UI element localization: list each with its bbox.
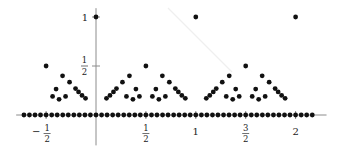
data-point (230, 97, 235, 102)
axis-data-point (182, 113, 187, 118)
axis-data-point (127, 113, 132, 118)
axis-data-point (232, 113, 237, 118)
data-point (207, 93, 212, 98)
data-point (260, 73, 265, 78)
data-point (108, 93, 113, 98)
x-tick-label-two: 2 (292, 126, 298, 137)
data-point (250, 94, 255, 99)
data-point (279, 93, 284, 98)
data-point (273, 86, 278, 91)
data-point (124, 94, 129, 99)
data-point (120, 80, 125, 85)
tick-text: 1 (193, 126, 199, 137)
axis-data-point (265, 113, 270, 118)
axis-data-point (177, 113, 182, 118)
data-point (60, 73, 65, 78)
axis-data-point (271, 113, 276, 118)
axis-data-point (282, 113, 287, 118)
tick-denominator: 2 (44, 134, 49, 144)
tick-text: 2 (292, 126, 298, 137)
axis-data-point (116, 113, 121, 118)
y-tick-label-one: 1 (82, 12, 88, 23)
axis-data-point (166, 113, 171, 118)
axis-data-point (188, 113, 193, 118)
data-point (150, 94, 155, 99)
data-point (193, 15, 198, 20)
axis-data-point (199, 113, 204, 118)
tick-denominator: 2 (82, 67, 87, 77)
data-point (179, 93, 184, 98)
axis-data-point (293, 113, 298, 118)
data-point (137, 94, 142, 99)
axis-data-point (193, 113, 198, 118)
axis-data-point (160, 113, 165, 118)
data-point (73, 86, 78, 91)
axis-data-point (227, 113, 232, 118)
data-point (243, 64, 248, 69)
axis-data-point (254, 113, 259, 118)
axis-data-point (121, 113, 126, 118)
data-point (54, 87, 59, 92)
axis-data-point (310, 113, 315, 118)
data-point (263, 94, 268, 99)
tick-denominator: 2 (243, 134, 248, 144)
x-tick-label-three-halves: 3 2 (242, 123, 249, 144)
data-point (144, 64, 149, 69)
axis-data-point (77, 113, 82, 118)
data-point (237, 94, 242, 99)
axis-data-point (149, 113, 154, 118)
data-point (256, 97, 261, 102)
axis-data-point (155, 113, 160, 118)
data-point (131, 97, 136, 102)
data-point (153, 87, 158, 92)
axis-data-point (277, 113, 282, 118)
data-point (57, 97, 62, 102)
tick-numerator: 3 (243, 123, 248, 133)
data-point (94, 15, 99, 20)
tick-numerator: 1 (82, 55, 87, 65)
tick-numerator: 1 (44, 123, 49, 133)
axis-data-point (33, 113, 38, 118)
data-point (253, 87, 258, 92)
axis-data-point (44, 113, 49, 118)
data-point (233, 87, 238, 92)
axis-data-point (216, 113, 221, 118)
data-point (267, 80, 272, 85)
axis-data-point (304, 113, 309, 118)
data-point (293, 15, 298, 20)
data-point (134, 87, 139, 92)
x-tick-label-one: 1 (193, 126, 199, 137)
axis-data-point (71, 113, 76, 118)
axis-data-point (27, 113, 32, 118)
data-point (156, 97, 161, 102)
data-point (220, 80, 225, 85)
tick-denominator: 2 (143, 134, 148, 144)
axis-data-point (94, 113, 99, 118)
data-point (50, 94, 55, 99)
tick-text: 1 (82, 12, 88, 23)
data-point (44, 64, 49, 69)
data-point (173, 86, 178, 91)
axis-data-point (288, 113, 293, 118)
axis-data-point (210, 113, 215, 118)
data-point (163, 94, 168, 99)
x-tick-label-half: 1 2 (142, 123, 149, 144)
data-point (80, 93, 85, 98)
faint-scan-line (168, 8, 232, 72)
axis-data-point (60, 113, 65, 118)
data-point (227, 73, 232, 78)
data-point (224, 94, 229, 99)
thomae-function-plot: − 1 2 1 2 1 3 2 2 1 2 1 (0, 0, 345, 157)
x-tick-label-minus-half: − 1 2 (32, 123, 51, 144)
tick-numerator: 1 (143, 123, 148, 133)
data-point (214, 86, 219, 91)
data-point (114, 86, 119, 91)
axis-data-point (55, 113, 60, 118)
y-tick-label-half: 1 2 (81, 55, 88, 77)
axis-data-point (243, 113, 248, 118)
axis-data-point (171, 113, 176, 118)
axis-data-point (105, 113, 110, 118)
axis-data-point (110, 113, 115, 118)
data-point (127, 73, 132, 78)
axis-data-point (299, 113, 304, 118)
